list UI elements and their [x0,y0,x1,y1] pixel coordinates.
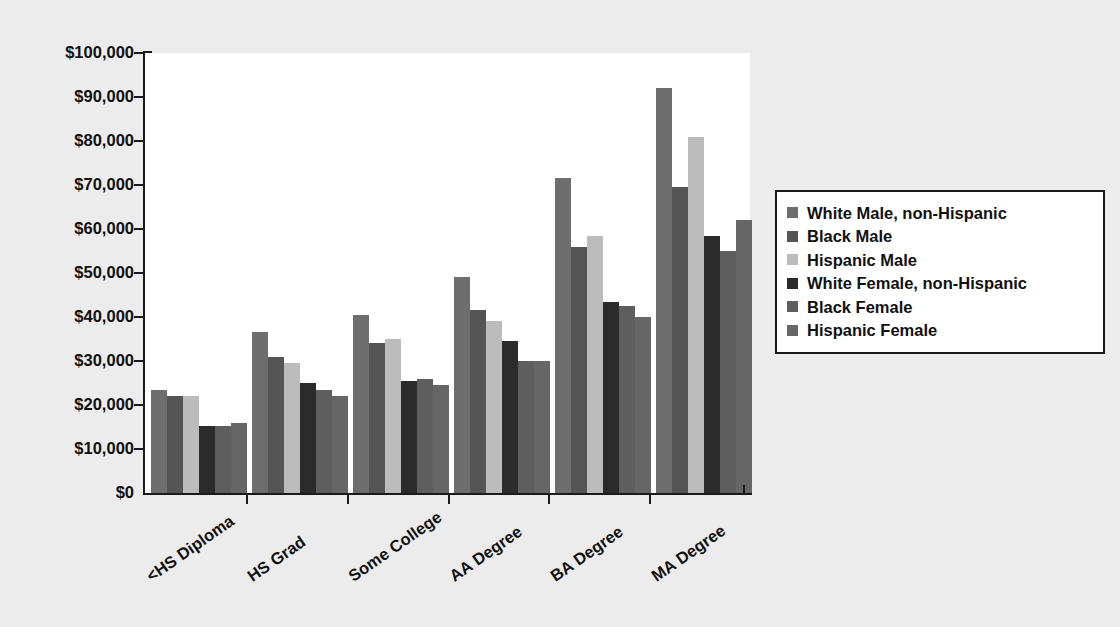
chart-page: $0$10,000$20,000$30,000$40,000$50,000$60… [0,0,1120,627]
legend-swatch-icon [787,207,798,218]
y-tick-label: $30,000 [14,351,134,370]
bar-group [454,53,550,493]
bar-group [656,53,752,493]
bar [470,310,486,493]
x-category-label: AA Degree [446,522,526,586]
chart-legend: White Male, non-HispanicBlack MaleHispan… [775,190,1105,354]
y-tick-label: $40,000 [14,307,134,326]
bar [231,423,247,493]
y-tick-label: $10,000 [14,439,134,458]
x-category-label: HS Grad [244,532,309,585]
bar [433,385,449,493]
bar [720,251,736,493]
bar [454,277,470,493]
bar [369,343,385,493]
bar-group [151,53,247,493]
bar-series-layer [145,53,750,493]
legend-label: Black Female [807,299,912,316]
legend-item: Hispanic Male [787,248,1093,272]
bar [518,361,534,493]
legend-label: Hispanic Female [807,322,937,339]
y-axis-labels: $0$10,000$20,000$30,000$40,000$50,000$60… [8,0,134,560]
legend-item: Hispanic Female [787,319,1093,343]
bar [704,236,720,493]
bar [619,306,635,493]
bar [672,187,688,493]
legend-swatch-icon [787,325,798,336]
y-tick-label: $80,000 [14,131,134,150]
bar [571,247,587,493]
x-category-label: BA Degree [547,522,627,586]
y-tick-label: $50,000 [14,263,134,282]
bar [183,396,199,493]
y-tick-label: $20,000 [14,395,134,414]
bar [587,236,603,493]
bar [486,321,502,493]
x-tick-mark [347,495,349,504]
legend-item: Black Female [787,295,1093,319]
x-tick-mark [448,495,450,504]
x-tick-mark [548,495,550,504]
bar [353,315,369,493]
bar-group [555,53,651,493]
bar [736,220,752,493]
bar [417,379,433,493]
bar [268,357,284,493]
legend-label: Black Male [807,228,892,245]
bar [332,396,348,493]
legend-label: White Male, non-Hispanic [807,205,1007,222]
x-tick-mark [649,495,651,504]
x-category-label: Some College [345,507,445,585]
bar [284,363,300,493]
bar [635,317,651,493]
bar [502,341,518,493]
x-axis-right-cap [743,485,745,495]
legend-item: White Male, non-Hispanic [787,201,1093,225]
y-tick-label: $0 [14,483,134,502]
legend-swatch-icon [787,278,798,289]
bar [534,361,550,493]
legend-swatch-icon [787,301,798,312]
legend-swatch-icon [787,231,798,242]
bar-group [252,53,348,493]
y-axis-top-cap [143,51,152,53]
bar [167,396,183,493]
legend-label: White Female, non-Hispanic [807,275,1027,292]
x-tick-mark [246,495,248,504]
x-category-label: MA Degree [648,521,729,586]
x-category-label: <HS Diploma [143,511,238,585]
bar [555,178,571,493]
bar [401,381,417,493]
y-tick-label: $60,000 [14,219,134,238]
bar-group [353,53,449,493]
legend-item: Black Male [787,225,1093,249]
y-tick-label: $70,000 [14,175,134,194]
bar [656,88,672,493]
y-tick-label: $100,000 [14,43,134,62]
legend-swatch-icon [787,254,798,265]
bar [603,302,619,493]
bar [316,390,332,493]
legend-item: White Female, non-Hispanic [787,272,1093,296]
y-axis-line [143,51,145,495]
bar [252,332,268,493]
y-tick-label: $90,000 [14,87,134,106]
bar [199,426,215,493]
legend-label: Hispanic Male [807,252,917,269]
bar [385,339,401,493]
bar [688,137,704,493]
bar [300,383,316,493]
bar [215,426,231,493]
bar [151,390,167,493]
